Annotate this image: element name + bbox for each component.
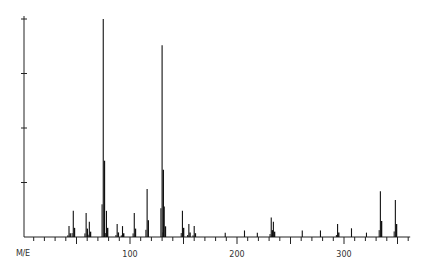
x-tick-label: 200	[229, 250, 244, 259]
x-tick-labels: 100200300	[122, 250, 351, 259]
x-tick-label: 100	[122, 250, 137, 259]
x-tick-label: 300	[336, 250, 351, 259]
mass-spectrum-chart: 100200300	[0, 0, 428, 271]
x-axis-label: M/E	[16, 249, 30, 258]
peaks	[68, 19, 397, 237]
axes	[21, 16, 410, 244]
